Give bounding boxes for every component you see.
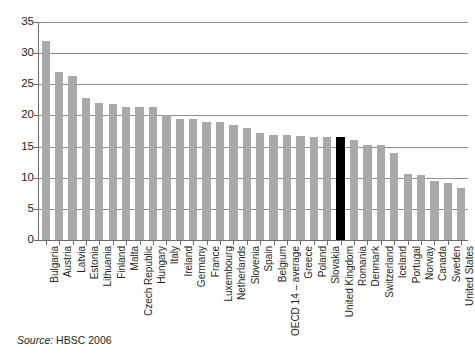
x-tick-mark [119,241,132,245]
bar-slot [321,22,334,240]
bar-slot [401,22,414,240]
source-label: Source: [17,334,53,346]
bar-norway [417,175,425,240]
bar-sweden [444,183,452,240]
x-tick-mark [79,241,92,245]
y-tick-mark-25 [34,84,38,85]
x-axis-tick-labels: BulgariaAustriaLatviaEstoniaLithuaniaFin… [39,246,468,330]
bar-bulgaria [42,41,50,240]
x-tick-mark [106,241,119,245]
x-label-slot: Finland [106,246,119,330]
bar-slot [39,22,52,240]
x-label-slot: Poland [307,246,320,330]
y-tick-mark-10 [34,178,38,179]
bar-spain [256,133,264,240]
bar-slot [119,22,132,240]
x-label-slot: United Kingdom [334,246,347,330]
x-label-slot: Luxembourg [213,246,226,330]
bar-romania [350,140,358,240]
x-label-slot: Latvia [66,246,79,330]
x-label-slot: Lithuania [93,246,106,330]
x-tick-mark [240,241,253,245]
x-label-slot: Czech Republic [133,246,146,330]
bar-slot [213,22,226,240]
x-label-slot: France [200,246,213,330]
x-tick-mark [334,241,347,245]
x-tick-mark [227,241,240,245]
x-label-slot: Italy [160,246,173,330]
x-label-slot: Switzerland [374,246,387,330]
x-tick-label-united-states: United States [465,246,475,306]
x-tick-mark [186,241,199,245]
bar-switzerland [377,145,385,240]
x-tick-mark [307,241,320,245]
x-tick-mark [93,241,106,245]
x-tick-mark [66,241,79,245]
bar-poland [310,137,318,240]
x-tick-mark [39,241,52,245]
x-tick-mark [294,241,307,245]
bar-united-states [457,188,465,240]
x-tick-mark [213,241,226,245]
y-tick-mark-30 [34,53,38,54]
source-note: Source: HBSC 2006 [17,334,112,346]
bar-oecd-14-average [283,135,291,240]
bar-slot [173,22,186,240]
bar-slovenia [243,128,251,240]
x-label-slot: Portugal [401,246,414,330]
bar-slovakia [323,137,331,240]
x-label-slot: Greece [294,246,307,330]
y-tick-mark-35 [34,22,38,23]
bar-france [202,122,210,240]
bar-slot [240,22,253,240]
bar-lithuania [95,103,103,240]
x-tick-mark [173,241,186,245]
x-label-slot: Norway [414,246,427,330]
bar-slot [52,22,65,240]
x-label-slot: OECD 14 – average [280,246,293,330]
bar-slot [254,22,267,240]
bar-united-kingdom [336,137,344,240]
x-label-slot: Germany [186,246,199,330]
bar-slot [186,22,199,240]
bar-series [39,22,468,240]
bar-slot [388,22,401,240]
bar-malta [122,107,130,240]
x-tick-mark [388,241,401,245]
bar-slot [428,22,441,240]
bar-slot [79,22,92,240]
bar-estonia [82,98,90,240]
x-tick-mark [52,241,65,245]
y-tick-mark-5 [34,209,38,210]
bar-greece [296,136,304,240]
x-label-slot: Malta [119,246,132,330]
x-label-slot: Romania [347,246,360,330]
x-label-slot: Canada [428,246,441,330]
x-tick-mark [441,241,454,245]
bar-slot [106,22,119,240]
x-label-slot: Ireland [173,246,186,330]
y-tick-label-30: 30 [4,47,34,59]
bar-slot [146,22,159,240]
bar-slot [294,22,307,240]
y-tick-label-10: 10 [4,172,34,184]
bar-latvia [68,76,76,240]
bar-denmark [363,145,371,240]
x-label-slot: United States [455,246,468,330]
y-tick-label-5: 5 [4,203,34,215]
x-tick-mark [160,241,173,245]
x-tick-mark [414,241,427,245]
x-label-slot: Iceland [388,246,401,330]
y-tick-mark-0 [34,240,38,241]
x-label-slot: Estonia [79,246,92,330]
y-tick-mark-20 [34,115,38,116]
bar-czech-republic [135,107,143,240]
y-tick-label-20: 20 [4,110,34,122]
bar-slot [227,22,240,240]
x-label-slot: Austria [52,246,65,330]
bar-finland [109,104,117,240]
bar-slot [280,22,293,240]
bar-netherlands [229,125,237,240]
x-tick-mark [267,241,280,245]
x-tick-mark [361,241,374,245]
